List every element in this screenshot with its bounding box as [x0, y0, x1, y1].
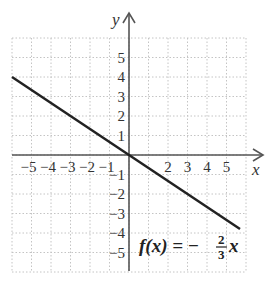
- y-tick-label: −3: [109, 206, 125, 222]
- x-tick-label: 4: [203, 159, 211, 175]
- function-line: [12, 77, 240, 229]
- fraction-denominator: 3: [218, 247, 225, 262]
- y-tick-label: 1: [118, 128, 126, 144]
- y-tick-label: −1: [109, 167, 125, 183]
- y-tick-label: −5: [109, 245, 125, 261]
- x-tick-label: −5: [21, 159, 37, 175]
- y-axis-label: y: [110, 10, 120, 29]
- y-tick-label: 3: [118, 89, 126, 105]
- y-tick-label: 4: [118, 69, 126, 85]
- x-tick-label: 5: [223, 159, 231, 175]
- equation-label: f(x) = − 2 3 x: [139, 232, 239, 262]
- x-axis-label: x: [251, 160, 260, 179]
- x-tick-label: 3: [184, 159, 192, 175]
- y-tick-label: 2: [118, 108, 126, 124]
- fraction-numerator: 2: [218, 232, 225, 247]
- svg-text:f(x) = −: f(x) = −: [139, 235, 199, 257]
- axes: [12, 13, 263, 271]
- y-tick-label: −2: [109, 186, 125, 202]
- function-graph: x y −5−4−3−2−12345 54321−1−2−3−4−5 f(x) …: [0, 0, 274, 285]
- y-tick-label: 5: [118, 50, 126, 66]
- x-tick-label: −2: [79, 159, 95, 175]
- x-tick-label: 2: [164, 159, 172, 175]
- equation-lhs: f(x) = −: [139, 235, 199, 257]
- equation-variable: x: [228, 235, 239, 256]
- x-tick-labels: −5−4−3−2−12345: [21, 159, 231, 175]
- x-tick-label: −4: [40, 159, 56, 175]
- y-tick-label: −4: [109, 225, 125, 241]
- x-tick-label: −3: [60, 159, 76, 175]
